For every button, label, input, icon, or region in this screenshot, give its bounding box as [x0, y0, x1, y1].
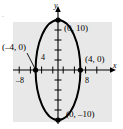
x-axis-tick-label-neg8: –8: [16, 77, 24, 85]
ellipse-graph-figure: (0, 10) (4, 0) (–4, 0) (0, –10) 4 8 –8 y…: [0, 0, 123, 129]
label-left-vertex: (–4, 0): [2, 43, 26, 52]
point-top-vertex: [55, 17, 60, 22]
point-bottom-vertex: [55, 117, 60, 122]
label-top-vertex: (0, 10): [64, 24, 88, 33]
label-right-vertex: (4, 0): [85, 55, 105, 64]
point-left-vertex: [33, 67, 38, 72]
y-axis-tick-label-4: 4: [41, 54, 45, 62]
corner-mark: .: [2, 12, 4, 19]
y-axis-label: y: [54, 2, 58, 10]
label-bottom-vertex: (0, –10): [66, 110, 95, 119]
plot-canvas: [0, 0, 123, 129]
x-axis-label: x: [113, 62, 117, 70]
point-right-vertex: [78, 67, 83, 72]
x-axis-tick-label-8: 8: [85, 77, 89, 85]
leader-line-left-vertex: [27, 53, 35, 69]
